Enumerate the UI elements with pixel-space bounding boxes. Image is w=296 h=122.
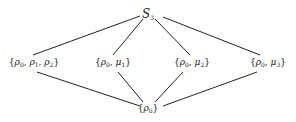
hasse-diagram: S3 {ρ0, ρ1, ρ2} {ρ0, μ1} {ρ0, μ2} {ρ0, μ… — [0, 0, 296, 122]
brace-close: } — [53, 57, 59, 67]
node-mu2-group: {ρ0, μ2} — [174, 58, 210, 68]
node-mu3-group: {ρ0, μ3} — [250, 58, 286, 68]
edge-mu3-group-trivial — [163, 72, 257, 106]
brace-close: } — [204, 57, 210, 67]
edge-rho-group-trivial — [37, 72, 140, 106]
brace-close: } — [125, 57, 131, 67]
node-rho-group: {ρ0, ρ1, ρ2} — [9, 58, 59, 68]
brace-close: } — [280, 57, 286, 67]
node-s3-sub: 3 — [150, 14, 154, 21]
edge-mu2-group-trivial — [155, 72, 183, 102]
brace-close: } — [153, 103, 159, 113]
edge-s3-mu2-group — [155, 19, 190, 55]
node-mu1-group: {ρ0, μ1} — [95, 58, 131, 68]
node-s3-base: S — [142, 7, 150, 21]
edge-s3-mu3-group — [163, 17, 260, 55]
edge-s3-rho-group — [33, 16, 140, 55]
node-s3: S3 — [142, 8, 154, 21]
node-trivial: {ρ0} — [138, 104, 159, 114]
edge-mu1-group-trivial — [118, 72, 143, 102]
